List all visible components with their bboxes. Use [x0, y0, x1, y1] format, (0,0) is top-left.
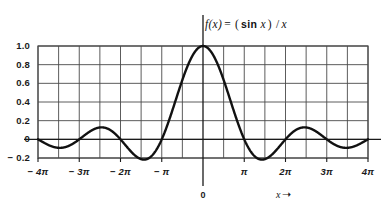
title-paren-open: ( — [233, 18, 241, 30]
title-sin-arg: x — [260, 18, 265, 30]
axis-lines-group — [24, 15, 381, 186]
x-tick-label: − 3π — [62, 166, 96, 177]
y-tick-label: 0.4 — [0, 96, 30, 107]
title-denominator: x — [281, 18, 286, 30]
sinc-function-plot — [0, 0, 390, 211]
origin-label: 0 — [196, 190, 210, 200]
arrow-right-icon: ➝ — [280, 188, 291, 200]
x-tick-label: 3π — [310, 166, 344, 177]
x-tick-label: 2π — [269, 166, 303, 177]
x-tick-label: 4π — [351, 166, 385, 177]
y-tick-label: 0.2 — [0, 115, 30, 126]
function-title: f(x)=(sin x)/x — [205, 18, 287, 30]
x-tick-label: − 4π — [21, 166, 55, 177]
title-equals: = — [222, 18, 233, 30]
y-tick-label: 0 — [0, 133, 30, 144]
title-paren-close: ) — [266, 18, 274, 30]
x-tick-label: π — [227, 166, 261, 177]
title-sin: sin — [241, 18, 257, 30]
y-tick-label: − 0.2 — [0, 152, 30, 163]
y-tick-label: 0.8 — [0, 59, 30, 70]
x-axis-caption: x➝ — [276, 188, 291, 201]
y-tick-label: 0.6 — [0, 77, 30, 88]
title-function-name: f(x) — [205, 18, 222, 30]
figure-container: f(x)=(sin x)/x 1.00.80.60.40.20− 0.2 − 4… — [0, 0, 390, 211]
x-tick-label: − 2π — [104, 166, 138, 177]
x-tick-label: − π — [145, 166, 179, 177]
y-tick-label: 1.0 — [0, 40, 30, 51]
